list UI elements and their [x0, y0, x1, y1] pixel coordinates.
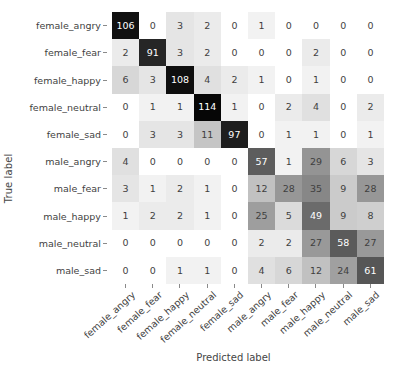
matrix-cell: 24 [330, 257, 357, 284]
matrix-cell: 2 [221, 66, 248, 93]
matrix-cell: 3 [139, 121, 166, 148]
matrix-cell: 29 [302, 148, 329, 175]
matrix-cell: 0 [194, 148, 221, 175]
y-tick-mark [103, 80, 107, 81]
x-tick-mark [370, 284, 371, 288]
x-axis-label-text: Predicted label [138, 352, 270, 363]
matrix-cell: 0 [112, 257, 139, 284]
matrix-cell: 0 [330, 12, 357, 39]
y-tick-label-text: male_happy [43, 211, 101, 222]
matrix-cell: 3 [139, 66, 166, 93]
matrix-cell: 27 [357, 230, 384, 257]
matrix-cell: 2 [139, 202, 166, 229]
matrix-cell: 2 [357, 94, 384, 121]
matrix-cell: 2 [112, 39, 139, 66]
y-axis-label-text: True label [4, 153, 15, 203]
matrix-cell: 0 [221, 230, 248, 257]
x-tick-mark [288, 284, 289, 288]
x-axis-label: Predicted label [0, 352, 409, 363]
matrix-cell: 108 [166, 66, 193, 93]
matrix-cell: 2 [166, 202, 193, 229]
matrix-cell: 0 [330, 94, 357, 121]
y-tick-label: male_angry [16, 148, 108, 175]
matrix-cell: 1 [248, 66, 275, 93]
matrix-cell: 49 [302, 202, 329, 229]
matrix-cell: 106 [112, 12, 139, 39]
y-tick-mark [103, 188, 107, 189]
matrix-cell: 57 [248, 148, 275, 175]
y-tick-mark [103, 107, 107, 108]
matrix-cell: 4 [194, 66, 221, 93]
x-tick-labels: female_angryfemale_fearfemale_happyfemal… [112, 289, 384, 349]
matrix-cell: 0 [139, 230, 166, 257]
confusion-matrix-figure: True label female_angryfemale_fearfemale… [0, 0, 409, 377]
matrix-cell: 0 [139, 257, 166, 284]
matrix-cell: 0 [248, 121, 275, 148]
matrix-cell: 9 [330, 202, 357, 229]
matrix-cell: 0 [330, 66, 357, 93]
matrix-cell: 0 [302, 12, 329, 39]
y-tick-mark [103, 25, 107, 26]
matrix-cell: 9 [330, 175, 357, 202]
matrix-cell: 0 [221, 257, 248, 284]
matrix-cell: 0 [248, 39, 275, 66]
matrix-cell: 1 [275, 121, 302, 148]
matrix-cell: 0 [275, 12, 302, 39]
y-tick-mark [103, 243, 107, 244]
y-tick-label-text: female_angry [36, 20, 101, 31]
matrix-cell: 3 [112, 175, 139, 202]
matrix-cell: 0 [139, 12, 166, 39]
matrix-cell: 3 [166, 121, 193, 148]
matrix-cell: 0 [112, 94, 139, 121]
matrix-cell: 3 [357, 148, 384, 175]
x-tick-mark [261, 284, 262, 288]
x-tick-mark [125, 284, 126, 288]
matrix-cell: 12 [302, 257, 329, 284]
matrix-cell: 0 [330, 121, 357, 148]
y-tick-label: female_sad [16, 121, 108, 148]
matrix-grid: 1060320100002913200020063108421010001111… [112, 12, 384, 284]
y-tick-mark [103, 134, 107, 135]
matrix-cell: 1 [139, 175, 166, 202]
x-tick-mark [343, 284, 344, 288]
y-tick-label: female_fear [16, 39, 108, 66]
matrix-cell: 1 [139, 94, 166, 121]
y-tick-label: female_happy [16, 66, 108, 93]
matrix-cell: 6 [275, 257, 302, 284]
matrix-cell: 6 [112, 66, 139, 93]
y-tick-label-text: male_neutral [39, 238, 101, 249]
y-tick-label: female_angry [16, 12, 108, 39]
matrix-cell: 0 [221, 39, 248, 66]
matrix-cell: 0 [194, 230, 221, 257]
y-axis-label: True label [2, 118, 16, 238]
matrix-cell: 1 [166, 94, 193, 121]
matrix-cell: 2 [302, 39, 329, 66]
matrix-cell: 2 [248, 230, 275, 257]
matrix-cell: 0 [275, 39, 302, 66]
y-tick-label: female_neutral [16, 94, 108, 121]
matrix-cell: 58 [330, 230, 357, 257]
y-tick-label-text: female_neutral [30, 102, 101, 113]
matrix-cell: 0 [221, 12, 248, 39]
matrix-cell: 4 [302, 94, 329, 121]
matrix-cell: 1 [194, 175, 221, 202]
y-tick-mark [103, 270, 107, 271]
matrix-cell: 4 [112, 148, 139, 175]
matrix-cell: 0 [248, 94, 275, 121]
matrix-cell: 91 [139, 39, 166, 66]
x-tick-mark [315, 284, 316, 288]
matrix-cell: 6 [330, 148, 357, 175]
matrix-cell: 2 [166, 175, 193, 202]
matrix-cell: 4 [248, 257, 275, 284]
y-tick-label-text: female_happy [34, 75, 101, 86]
matrix-cell: 0 [221, 175, 248, 202]
matrix-cell: 8 [357, 202, 384, 229]
y-tick-label-text: male_fear [54, 183, 101, 194]
matrix-cell: 0 [357, 39, 384, 66]
y-tick-mark [103, 216, 107, 217]
matrix-cell: 1 [221, 94, 248, 121]
matrix-cell: 114 [194, 94, 221, 121]
y-tick-labels: female_angryfemale_fearfemale_happyfemal… [16, 12, 108, 284]
matrix-cell: 1 [112, 202, 139, 229]
matrix-cell: 1 [194, 257, 221, 284]
